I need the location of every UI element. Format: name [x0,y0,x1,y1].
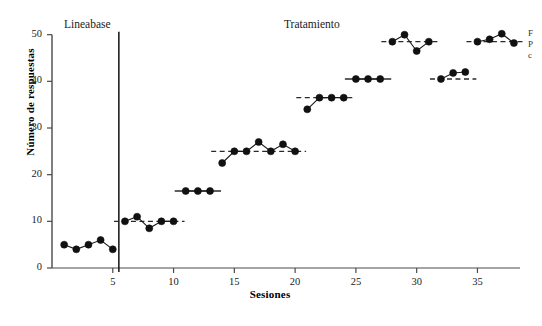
data-point-3-5 [279,141,286,148]
data-point-1-2 [146,225,153,232]
data-point-3-6 [292,148,299,155]
data-point-8-3 [510,40,517,47]
y-axis-title: Número de respuestas [24,12,36,192]
data-point-3-3 [255,139,262,146]
data-line-4 [307,98,343,110]
data-point-1-1 [134,213,141,220]
data-point-2-0 [182,188,189,195]
data-point-4-2 [328,94,335,101]
data-point-8-2 [498,30,505,37]
data-point-7-0 [437,76,444,83]
data-point-6-0 [389,38,396,45]
data-point-4-3 [340,94,347,101]
data-point-1-3 [158,218,165,225]
x-axis-title: Sesiones [180,288,360,300]
data-point-6-2 [413,48,420,55]
data-point-0-0 [61,241,68,248]
data-point-6-1 [401,31,408,38]
x-tick-label-30: 30 [404,276,430,287]
y-tick-label-50: 50 [16,28,42,39]
x-tick-label-35: 35 [464,276,490,287]
data-point-3-2 [243,148,250,155]
data-point-1-4 [170,218,177,225]
data-point-5-1 [365,76,372,83]
data-point-0-1 [73,246,80,253]
data-point-4-0 [304,106,311,113]
data-point-2-1 [194,188,201,195]
phase-label-treatment: Tratamiento [284,18,340,30]
data-point-6-3 [425,38,432,45]
y-tick-label-0: 0 [16,261,42,272]
x-tick-label-25: 25 [343,276,369,287]
x-tick-label-15: 15 [221,276,247,287]
y-tick-label-20: 20 [16,168,42,179]
plot-area [0,0,542,326]
y-tick-label-40: 40 [16,74,42,85]
data-point-0-2 [85,241,92,248]
phase-label-baseline: Lineabase [64,18,111,30]
edge-caption: F P c [528,28,542,61]
y-tick-label-30: 30 [16,121,42,132]
edge-caption-line-2: P [528,39,542,50]
data-point-8-1 [486,36,493,43]
edge-caption-line-1: F [528,28,542,39]
data-point-1-0 [121,218,128,225]
data-point-5-2 [377,76,384,83]
data-point-0-3 [97,237,104,244]
data-point-7-1 [450,69,457,76]
data-point-3-1 [231,148,238,155]
x-tick-label-5: 5 [100,276,126,287]
data-point-0-4 [109,246,116,253]
data-line-6 [392,35,428,51]
data-point-2-2 [207,188,214,195]
data-point-5-0 [352,76,359,83]
chart-figure: Número de respuestas Sesiones Lineabase … [0,0,542,326]
edge-caption-line-3: c [528,50,542,61]
data-point-8-0 [474,38,481,45]
data-point-3-4 [267,148,274,155]
data-point-3-0 [219,160,226,167]
data-point-7-2 [462,69,469,76]
y-tick-label-10: 10 [16,214,42,225]
x-tick-label-20: 20 [282,276,308,287]
x-tick-label-10: 10 [161,276,187,287]
data-point-4-1 [316,94,323,101]
